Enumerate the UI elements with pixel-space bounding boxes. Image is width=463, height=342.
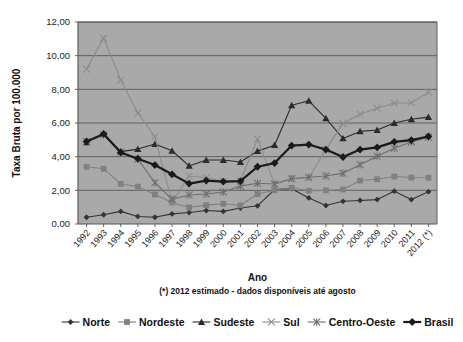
y-axis-title-text: Taxa Bruta por 100.000: [11, 68, 22, 177]
data-point-marker: [272, 187, 278, 193]
y-tick-label: 4,00: [52, 151, 71, 162]
data-point-marker: [118, 181, 124, 187]
data-point-marker: [340, 187, 346, 193]
data-point-marker: [124, 319, 130, 325]
data-point-marker: [323, 187, 329, 193]
data-point-marker: [186, 205, 192, 211]
data-point-marker: [84, 164, 90, 170]
y-tick-label: 6,00: [52, 117, 71, 128]
data-point-marker: [101, 166, 107, 172]
x-axis-title-text: Ano: [248, 272, 267, 283]
data-point-marker: [408, 175, 414, 181]
legend-label: Norte: [83, 316, 111, 328]
data-point-marker: [306, 188, 312, 194]
y-tick-label: 8,00: [52, 84, 71, 95]
line-chart: 0,002,004,006,008,0010,0012,00 199219931…: [0, 0, 463, 342]
legend-label: Centro-Oeste: [329, 316, 396, 328]
legend-label: Nordeste: [139, 316, 185, 328]
y-tick-label: 0,00: [52, 218, 71, 229]
y-axis-label: Taxa Bruta por 100.000: [11, 68, 22, 177]
legend-label: Sul: [283, 316, 299, 328]
footnote-text: (*) 2012 estimado - dados disponíveis at…: [159, 286, 356, 296]
data-point-marker: [203, 202, 209, 208]
data-point-marker: [220, 201, 226, 207]
data-point-marker: [152, 192, 158, 198]
y-tick-label: 10,00: [46, 50, 70, 61]
data-point-marker: [135, 184, 141, 190]
chart-footnote: (*) 2012 estimado - dados disponíveis at…: [159, 286, 356, 296]
data-point-marker: [238, 203, 244, 209]
data-point-marker: [357, 178, 363, 184]
data-point-marker: [289, 185, 295, 191]
data-point-marker: [255, 191, 261, 197]
y-tick-label: 12,00: [46, 16, 70, 27]
data-point-marker: [426, 175, 432, 181]
x-axis-label: Ano: [248, 272, 267, 283]
legend-label: Sudeste: [214, 316, 255, 328]
legend-label: Brasil: [424, 316, 453, 328]
chart-container: 0,002,004,006,008,0010,0012,00 199219931…: [0, 0, 463, 342]
data-point-marker: [374, 176, 380, 182]
data-point-marker: [391, 174, 397, 180]
y-tick-label: 2,00: [52, 185, 71, 196]
